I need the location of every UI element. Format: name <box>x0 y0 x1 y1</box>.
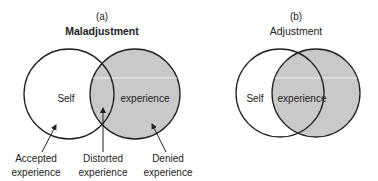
callout-denied-line1: Denied <box>144 152 193 166</box>
panel-b-letter: (b) <box>290 12 302 22</box>
panel-a-self-label: Self <box>57 94 74 104</box>
callout-accepted-line1: Accepted <box>12 152 61 166</box>
self-experience-diagram: (a) Maladjustment Self experience Accept… <box>0 0 378 181</box>
accepted-arrow <box>42 125 56 152</box>
panel-b-experience-label: experience <box>278 94 327 104</box>
callout-distorted-line1: Distorted <box>79 152 128 166</box>
panel-a-letter: (a) <box>96 12 108 22</box>
panel-a-title: Maladjustment <box>65 26 139 37</box>
callout-distorted-line2: experience <box>79 166 128 180</box>
panel-b-self-label: Self <box>246 94 263 104</box>
callout-distorted-experience: Distorted experience <box>79 152 128 180</box>
callout-accepted-experience: Accepted experience <box>12 152 61 180</box>
callout-accepted-line2: experience <box>12 166 61 180</box>
callout-denied-line2: experience <box>144 166 193 180</box>
panel-a-experience-label: experience <box>121 94 170 104</box>
panel-b-title: Adjustment <box>270 26 323 37</box>
callout-denied-experience: Denied experience <box>144 152 193 180</box>
